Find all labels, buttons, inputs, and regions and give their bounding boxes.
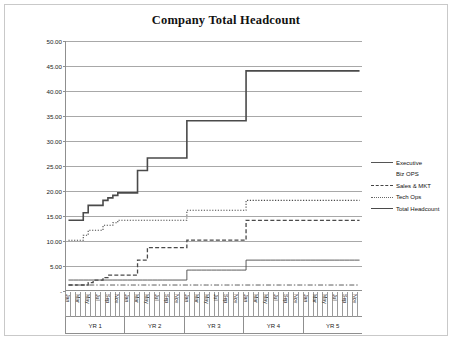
month-cell (357, 292, 362, 317)
legend-key-icon (371, 197, 393, 198)
year-group-5: YR 5 (303, 317, 362, 334)
year-group-4: YR 4 (243, 317, 302, 334)
chart-title: Company Total Headcount (5, 13, 447, 28)
year-group-label: YR 3 (207, 323, 220, 329)
series-layer (66, 41, 362, 290)
series-line-total-headcount (68, 71, 359, 220)
year-group-1: YR 1 (65, 317, 124, 334)
chart-frame: Company Total Headcount -5.0010.0015.002… (4, 4, 448, 336)
legend-label: Executive (396, 160, 422, 166)
legend-label: Total Headcount (396, 206, 439, 212)
legend-item-total-headcount[interactable]: Total Headcount (371, 203, 456, 215)
legend-item-sales-mkt[interactable]: Sales & MKT (371, 180, 456, 192)
y-tick-label: - (60, 288, 62, 295)
year-group-label: YR 5 (326, 323, 339, 329)
legend-item-tech-ops[interactable]: Tech Ops (371, 192, 456, 204)
y-tick-label: 15.00 (47, 213, 62, 220)
legend-key-icon (371, 162, 393, 163)
legend-key-icon (371, 208, 393, 209)
y-tick-label: 45.00 (47, 63, 62, 70)
y-tick-label: 50.00 (47, 38, 62, 45)
y-tick-label: 25.00 (47, 163, 62, 170)
x-axis-year-band: YR 1YR 2YR 3YR 4YR 5 (65, 317, 362, 334)
y-tick-label: 20.00 (47, 188, 62, 195)
series-line-executive (68, 260, 359, 280)
chart-legend: ExecutiveBiz OPSSales & MKTTech OpsTotal… (371, 157, 456, 215)
year-group-label: YR 2 (148, 323, 161, 329)
y-tick-label: 5.00 (50, 263, 62, 270)
legend-key-icon (371, 185, 393, 186)
legend-label: Biz OPS (396, 171, 419, 177)
legend-label: Tech Ops (396, 194, 421, 200)
year-group-label: YR 1 (89, 323, 102, 329)
series-line-sales-mkt (68, 220, 359, 285)
y-tick-label: 40.00 (47, 88, 62, 95)
x-axis-month-band: JanMarMayJulSepNovJanMarMayJulSepNovJanM… (65, 292, 362, 317)
y-tick-label: 30.00 (47, 138, 62, 145)
plot-area: -5.0010.0015.0020.0025.0030.0035.0040.00… (65, 41, 362, 291)
y-tick-label: 35.00 (47, 113, 62, 120)
legend-item-executive[interactable]: Executive (371, 157, 456, 169)
legend-item-biz-ops[interactable]: Biz OPS (371, 169, 456, 181)
year-group-label: YR 4 (267, 323, 280, 329)
year-group-3: YR 3 (184, 317, 243, 334)
year-group-2: YR 2 (124, 317, 183, 334)
legend-label: Sales & MKT (396, 183, 431, 189)
y-tick-label: 10.00 (47, 238, 62, 245)
